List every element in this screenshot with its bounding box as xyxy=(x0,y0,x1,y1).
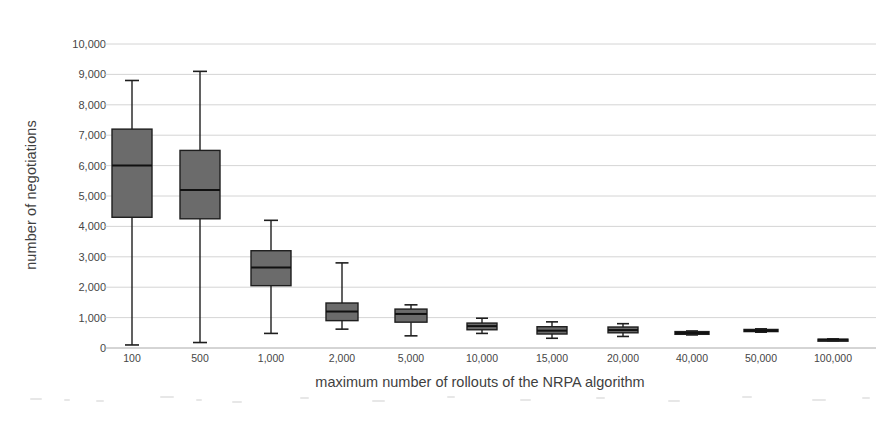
box-iqr xyxy=(395,309,427,322)
x-tick-label: 5,000 xyxy=(398,352,424,364)
x-tick-label: 20,000 xyxy=(607,352,639,364)
box-plot-item xyxy=(818,339,848,341)
box-plot-item xyxy=(395,305,427,336)
box-plot-item xyxy=(112,80,152,344)
box-plot-item xyxy=(467,318,497,333)
x-tick-label: 15,000 xyxy=(536,352,568,364)
box-plot-item xyxy=(537,322,567,338)
x-tick-label: 500 xyxy=(191,352,209,364)
box-plot-item xyxy=(675,331,709,335)
x-tick-label: 1,000 xyxy=(258,352,284,364)
box-plot-figure: number of negotiations 01,0002,0003,0004… xyxy=(0,0,893,421)
box-series xyxy=(112,71,848,345)
box-plot-item xyxy=(744,329,778,332)
x-tick-label: 50,000 xyxy=(745,352,777,364)
x-tick-label: 100 xyxy=(123,352,141,364)
box-iqr xyxy=(180,150,220,218)
box-plot-item xyxy=(251,220,291,333)
box-iqr xyxy=(112,129,152,217)
x-tick-label: 100,000 xyxy=(814,352,852,364)
x-axis-title: maximum number of rollouts of the NRPA a… xyxy=(100,374,860,390)
x-tick-label: 10,000 xyxy=(466,352,498,364)
box-plot-item xyxy=(326,263,358,329)
x-tick-label: 40,000 xyxy=(676,352,708,364)
box-plot-item xyxy=(608,324,638,337)
x-tick-label: 2,000 xyxy=(329,352,355,364)
box-plot-item xyxy=(180,71,220,342)
